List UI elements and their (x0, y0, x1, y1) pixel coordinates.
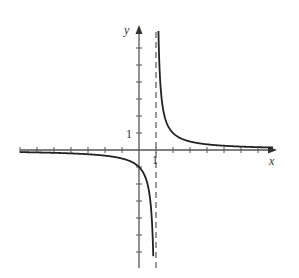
graph-canvas: y x 1 1 (0, 0, 299, 278)
curve-left-branch (20, 152, 153, 256)
y-axis-label: y (123, 23, 130, 37)
curve-right-branch (158, 31, 273, 148)
y-axis-arrow-icon (136, 25, 143, 34)
x-axis-label: x (268, 154, 275, 168)
y-tick-label-1: 1 (126, 127, 132, 141)
x-tick-label-1: 1 (152, 153, 158, 167)
